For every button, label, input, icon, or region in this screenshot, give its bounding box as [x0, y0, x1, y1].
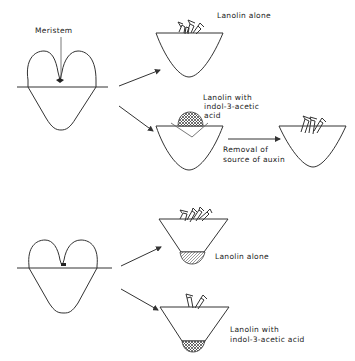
arrow-to-lanolin-iaa — [119, 106, 153, 131]
top-panel — [17, 20, 346, 170]
meristem-dot-bottom — [61, 263, 66, 266]
stump-lanolin-alone-top — [156, 20, 223, 77]
bottom-lanolin-iaa-label-2: indol-3-acetic acid — [230, 335, 305, 344]
top-lanolin-iaa-label-3: acid — [204, 111, 221, 120]
arrow-bottom-lanolin-iaa — [121, 289, 158, 310]
top-lanolin-iaa-label-2: indol-3-acetic — [204, 102, 259, 111]
meristem-label: Meristem — [35, 26, 72, 35]
removal-label-1: Removal of — [223, 145, 268, 154]
removal-label-2: source of auxin — [223, 155, 285, 164]
seedling-bottom — [17, 240, 112, 313]
bottom-lanolin-alone-label: Lanolin alone — [215, 252, 269, 261]
meristem-dot — [56, 78, 64, 83]
stump-after-removal — [279, 116, 346, 167]
bottom-panel — [17, 207, 229, 352]
arrow-to-lanolin-alone — [119, 70, 160, 86]
top-lanolin-alone-label: Lanolin alone — [217, 11, 271, 20]
stump-lanolin-iaa-top — [156, 112, 223, 170]
bottom-lanolin-iaa-label-1: Lanolin with — [230, 325, 279, 334]
seedling-top — [17, 37, 108, 130]
stump-bottom-lanolin-iaa — [160, 294, 229, 352]
auxin-experiment-diagram — [0, 0, 355, 361]
top-lanolin-iaa-label-1: Lanolin with — [203, 93, 252, 102]
arrow-bottom-lanolin-alone — [121, 247, 161, 266]
